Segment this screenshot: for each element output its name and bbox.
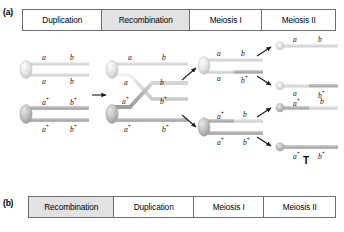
allele-label: b+ bbox=[318, 150, 325, 161]
allele-label: b bbox=[162, 53, 166, 62]
centromere bbox=[276, 42, 284, 50]
meiosis-ii-chromatid-2 bbox=[276, 82, 338, 90]
allele-label: b+ bbox=[70, 123, 77, 134]
centromere bbox=[198, 57, 210, 75]
allele-label: b bbox=[320, 97, 324, 106]
chromatid-bar bbox=[27, 106, 89, 110]
allele-label: a bbox=[42, 77, 46, 86]
allele-label: b+ bbox=[160, 95, 167, 106]
chromatid-bar bbox=[27, 62, 89, 65]
allele-sup: + bbox=[322, 89, 325, 95]
chromatid-bar-segment-light bbox=[280, 84, 309, 87]
allele-sup: + bbox=[297, 150, 300, 156]
recombination-chromosome-light bbox=[106, 61, 188, 100]
arrow-meiosis-i-to-ii-4 bbox=[257, 137, 271, 146]
chromatid-bar-segment-light bbox=[234, 119, 263, 123]
centromere bbox=[198, 118, 210, 136]
allele-label: a bbox=[293, 35, 297, 44]
stage-cell-meiosis-ii-b[interactable]: Meiosis II bbox=[264, 197, 335, 217]
allele-label: a+ bbox=[293, 150, 300, 161]
stage-header-table-b: Recombination Duplication Meiosis I Meio… bbox=[28, 196, 336, 218]
allele-label: b bbox=[70, 77, 74, 86]
allele-label: a bbox=[128, 53, 132, 62]
stage-cell-label: Recombination bbox=[44, 202, 98, 212]
allele-label: b bbox=[160, 78, 164, 87]
stage-cell-duplication-a[interactable]: Duplication bbox=[23, 10, 102, 30]
allele-sup: + bbox=[221, 110, 224, 116]
allele-label: b bbox=[241, 49, 245, 58]
allele-label: a bbox=[217, 74, 221, 83]
allele-sup: + bbox=[166, 123, 169, 129]
allele-label: a+ bbox=[217, 110, 224, 121]
stage-cell-label: Duplication bbox=[134, 202, 174, 212]
allele-sup: + bbox=[74, 96, 77, 102]
centromere bbox=[20, 61, 32, 79]
meiosis-i-chromosome-bottom bbox=[198, 118, 263, 136]
arrow-meiosis-i-to-ii-3 bbox=[257, 108, 271, 117]
allele-label: b+ bbox=[162, 123, 169, 134]
duplication-chromosome-light bbox=[20, 61, 89, 79]
allele-label: a+ bbox=[124, 123, 131, 134]
allele-sup: + bbox=[128, 123, 131, 129]
chromatid-bar-segment-dark bbox=[234, 70, 263, 74]
chromatid-bar bbox=[27, 118, 89, 122]
allele-sup: + bbox=[221, 136, 224, 142]
meiosis-i-chromosome-top bbox=[198, 57, 263, 75]
allele-sup: + bbox=[46, 96, 49, 102]
meiosis-ii-chromatid-3 bbox=[276, 104, 338, 112]
allele-label: a bbox=[217, 49, 221, 58]
stage-cell-label: Meiosis II bbox=[282, 15, 316, 25]
stage-cell-meiosis-ii-a[interactable]: Meiosis II bbox=[262, 10, 335, 30]
arrow-meiosis-i-to-ii-1 bbox=[257, 47, 271, 56]
arrow-recombination-to-meiosis-i-top bbox=[182, 68, 196, 80]
annotation-t-label: T bbox=[303, 155, 309, 166]
stage-cell-label: Meiosis II bbox=[283, 202, 317, 212]
stage-cell-label: Recombination bbox=[119, 15, 173, 25]
allele-label: b bbox=[243, 110, 247, 119]
centromere bbox=[106, 61, 118, 79]
stage-cell-meiosis-i-b[interactable]: Meiosis I bbox=[194, 197, 265, 217]
stage-cell-label: Duplication bbox=[42, 15, 82, 25]
stage-cell-recombination-b[interactable]: Recombination bbox=[29, 197, 114, 217]
panel-a-label: (a) bbox=[3, 7, 13, 17]
allele-label: a bbox=[42, 53, 46, 62]
stage-header-table-a: Duplication Recombination Meiosis I Meio… bbox=[22, 9, 336, 31]
allele-sup: + bbox=[126, 95, 129, 101]
arrow-meiosis-i-to-ii-2 bbox=[257, 76, 271, 85]
stage-cell-label: Meiosis I bbox=[210, 15, 242, 25]
allele-label: a+ bbox=[122, 95, 129, 106]
allele-label: a+ bbox=[293, 97, 300, 108]
recombination-chromosome-dark bbox=[106, 83, 188, 124]
chromatid-bar bbox=[205, 131, 263, 135]
chromatid-bar bbox=[280, 145, 338, 149]
centromere bbox=[20, 105, 32, 124]
meiosis-ii-chromatid-4 bbox=[276, 143, 338, 151]
stage-cell-duplication-b[interactable]: Duplication bbox=[114, 197, 193, 217]
stage-cell-label: Meiosis I bbox=[213, 202, 245, 212]
allele-label: b bbox=[70, 53, 74, 62]
chromatid-bar bbox=[113, 62, 188, 65]
centromere bbox=[276, 143, 284, 151]
allele-sup: + bbox=[297, 97, 300, 103]
stage-cell-recombination-a[interactable]: Recombination bbox=[102, 10, 189, 30]
chromatid-bar bbox=[205, 58, 263, 61]
panel-b-label: (b) bbox=[3, 198, 13, 208]
chromatid-bar-segment-dark bbox=[309, 84, 338, 87]
allele-label: b bbox=[318, 35, 322, 44]
centromere bbox=[106, 105, 118, 124]
allele-sup: + bbox=[46, 123, 49, 129]
allele-sup: + bbox=[245, 74, 248, 80]
chromatid-bar bbox=[27, 73, 89, 76]
allele-sup: + bbox=[74, 123, 77, 129]
chromatid-bar bbox=[113, 118, 188, 122]
chromatid-bar bbox=[280, 44, 338, 47]
allele-label: b+ bbox=[243, 136, 250, 147]
stage-cell-meiosis-i-a[interactable]: Meiosis I bbox=[190, 10, 263, 30]
allele-sup: + bbox=[322, 150, 325, 156]
allele-label: a+ bbox=[42, 123, 49, 134]
duplication-chromosome-dark bbox=[20, 105, 89, 124]
chromatid-bar-segment-light bbox=[309, 106, 338, 110]
allele-label: a+ bbox=[42, 96, 49, 107]
allele-sup: + bbox=[164, 95, 167, 101]
allele-sup: + bbox=[247, 136, 250, 142]
